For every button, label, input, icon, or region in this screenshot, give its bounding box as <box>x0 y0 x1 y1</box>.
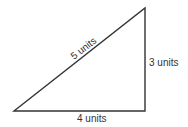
vertical-side-label: 3 units <box>149 57 178 68</box>
base-label: 4 units <box>77 113 106 124</box>
right-triangle-diagram: 5 units 3 units 4 units <box>0 0 188 127</box>
triangle-shape <box>14 8 145 111</box>
